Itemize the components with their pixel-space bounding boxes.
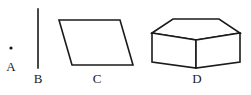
prism-front-left-face (152, 33, 196, 68)
prism-front-right-face (196, 33, 240, 68)
rectangular-prism-d (152, 19, 240, 68)
parallelogram-c (59, 20, 133, 65)
figure-label-b: B (26, 72, 50, 85)
geometry-figure-sheet: A B C D (0, 0, 251, 95)
figure-label-c: C (85, 72, 109, 85)
point-a-dot (9, 46, 12, 49)
figure-label-a: A (0, 60, 23, 73)
figure-label-d: D (185, 72, 209, 85)
